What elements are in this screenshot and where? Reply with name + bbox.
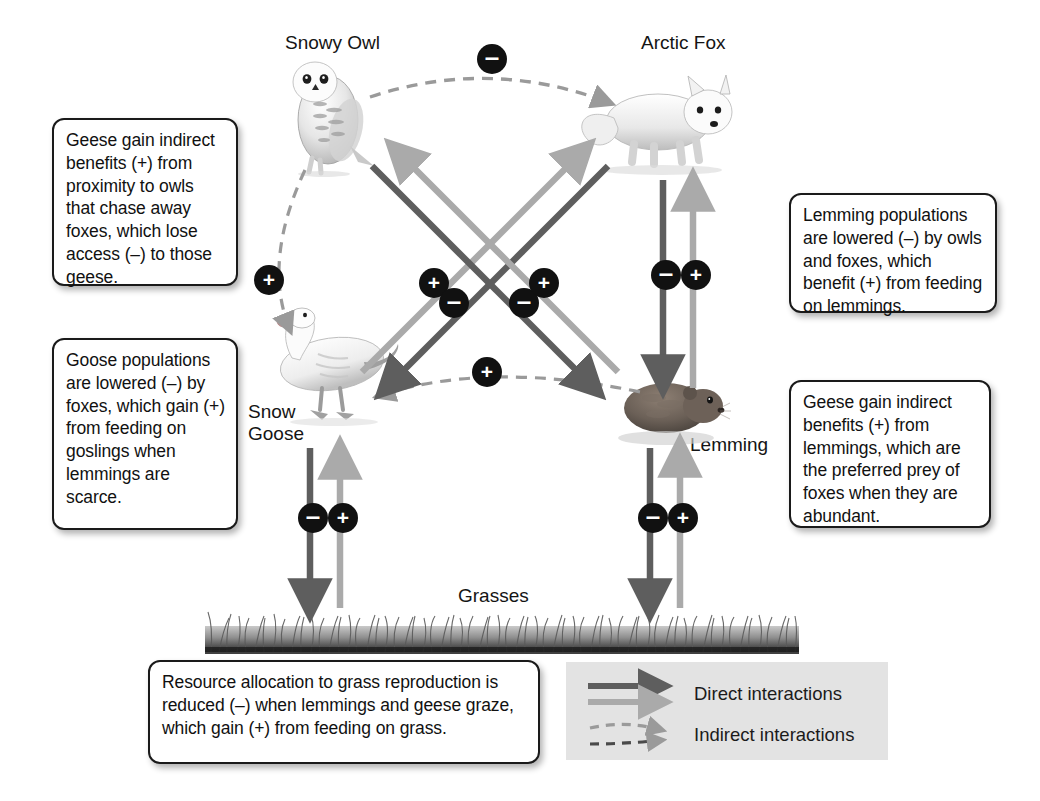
badge-fox-lemming-plus: + bbox=[681, 260, 711, 290]
edge-owl-to-goose-indirect bbox=[279, 170, 305, 330]
badge-lemming-grass-minus: – bbox=[638, 503, 668, 533]
diagram-canvas: Snowy Owl Arctic Fox Snow Goose Lemming … bbox=[0, 0, 1040, 801]
badge-fox-to-goose: – bbox=[439, 288, 469, 318]
badge-goose-grass-plus: + bbox=[328, 503, 358, 533]
edge-goose-to-fox-positive bbox=[362, 146, 588, 372]
badge-fox-lemming-minus: – bbox=[651, 260, 681, 290]
callout-grass-grazing: Resource allocation to grass reproductio… bbox=[148, 660, 540, 764]
badge-lemming-to-owl: + bbox=[529, 268, 559, 298]
badge-owl-fox: – bbox=[477, 44, 507, 74]
edge-owl-to-fox-indirect bbox=[370, 78, 610, 103]
node-label-grasses: Grasses bbox=[458, 585, 529, 607]
badge-goose-grass-minus: – bbox=[298, 503, 328, 533]
badge-goose-lemming: + bbox=[472, 357, 502, 387]
edge-lemming-to-owl-positive bbox=[392, 146, 618, 372]
badge-lemming-grass-plus: + bbox=[668, 503, 698, 533]
edge-lemming-to-goose-indirect bbox=[378, 377, 640, 396]
badge-owl-goose: + bbox=[254, 265, 284, 295]
edge-fox-to-goose-negative bbox=[382, 166, 608, 392]
